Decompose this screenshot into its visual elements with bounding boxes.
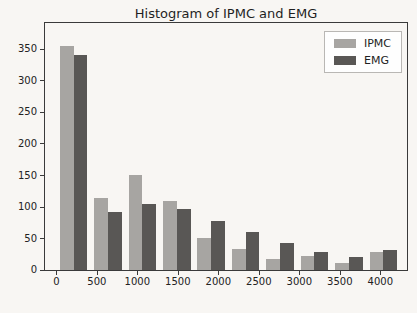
y-tick-mark-200 (40, 143, 45, 144)
bar-emg-bin4 (211, 221, 225, 270)
plot-area: 050100150200250300350 050010001500200025… (44, 22, 408, 271)
y-tick-label-0: 0 (3, 265, 37, 275)
x-tick-mark-2500 (259, 270, 260, 275)
y-tick-mark-50 (40, 238, 45, 239)
legend-item-ipmc: IPMC (334, 38, 391, 49)
bar-emg-bin9 (383, 250, 397, 270)
bar-emg-bin1 (108, 212, 122, 270)
legend-item-emg: EMG (334, 55, 391, 66)
bar-emg-bin2 (142, 204, 156, 270)
legend: IPMC EMG (324, 31, 402, 73)
bar-ipmc-bin6 (266, 259, 280, 270)
bar-ipmc-bin8 (335, 263, 349, 270)
bar-emg-bin5 (246, 232, 260, 270)
x-tick-label-2500: 2500 (246, 276, 271, 287)
bar-emg-bin6 (280, 243, 294, 270)
y-tick-mark-350 (40, 49, 45, 50)
x-tick-mark-2000 (218, 270, 219, 275)
x-tick-label-0: 0 (53, 276, 59, 287)
y-tick-mark-0 (40, 270, 45, 271)
bar-ipmc-bin5 (232, 249, 246, 270)
bar-ipmc-bin3 (163, 201, 177, 270)
bar-emg-bin7 (314, 252, 328, 270)
x-tick-mark-0 (56, 270, 57, 275)
y-tick-mark-250 (40, 112, 45, 113)
y-tick-label-200: 200 (3, 139, 37, 149)
x-tick-mark-500 (97, 270, 98, 275)
ipmc-color-swatch (334, 39, 356, 48)
x-tick-mark-3000 (299, 270, 300, 275)
x-tick-label-3500: 3500 (327, 276, 352, 287)
x-tick-label-1000: 1000 (125, 276, 150, 287)
y-tick-mark-300 (40, 80, 45, 81)
bar-ipmc-bin1 (94, 198, 108, 270)
y-tick-mark-100 (40, 207, 45, 208)
legend-label-ipmc: IPMC (364, 38, 391, 49)
bar-ipmc-bin2 (129, 175, 143, 270)
legend-label-emg: EMG (364, 55, 389, 66)
bar-ipmc-bin0 (60, 46, 74, 270)
emg-color-swatch (334, 56, 356, 65)
x-tick-label-500: 500 (87, 276, 106, 287)
bar-ipmc-bin9 (370, 252, 384, 270)
x-tick-mark-1000 (137, 270, 138, 275)
x-tick-label-3000: 3000 (287, 276, 312, 287)
y-tick-mark-150 (40, 175, 45, 176)
bar-ipmc-bin4 (197, 238, 211, 270)
x-tick-label-2000: 2000 (206, 276, 231, 287)
chart-title: Histogram of IPMC and EMG (44, 6, 408, 21)
y-tick-label-300: 300 (3, 76, 37, 86)
bar-emg-bin3 (177, 209, 191, 270)
x-tick-label-4000: 4000 (368, 276, 393, 287)
y-tick-label-50: 50 (3, 234, 37, 244)
x-tick-mark-4000 (380, 270, 381, 275)
y-tick-label-250: 250 (3, 107, 37, 117)
bar-emg-bin8 (349, 257, 363, 270)
figure: Histogram of IPMC and EMG 05010015020025… (0, 0, 417, 313)
x-tick-label-1500: 1500 (165, 276, 190, 287)
y-tick-label-100: 100 (3, 202, 37, 212)
bar-ipmc-bin7 (301, 256, 315, 270)
x-tick-mark-1500 (178, 270, 179, 275)
bar-emg-bin0 (74, 55, 88, 270)
x-tick-mark-3500 (340, 270, 341, 275)
y-tick-label-150: 150 (3, 171, 37, 181)
y-tick-label-350: 350 (3, 44, 37, 54)
